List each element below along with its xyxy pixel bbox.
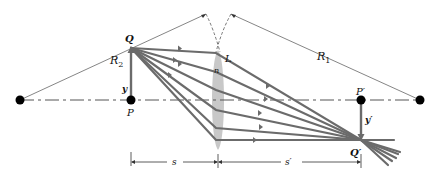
center-of-curvature-left — [16, 96, 25, 105]
ray-arrow-icon — [258, 110, 262, 116]
label-q: Q — [125, 33, 134, 44]
label-y: y — [121, 84, 128, 94]
label-r2: R2 — [109, 54, 123, 69]
radius-r1-tip-icon — [231, 14, 236, 18]
label-n: n — [214, 66, 219, 75]
label-p-prime: P′ — [355, 86, 366, 97]
label-y-prime: y′ — [364, 115, 373, 125]
lens-diagram: R2 R1 Q L n y P P′ y′ Q′ s s′ — [0, 0, 440, 180]
object-point-p — [127, 96, 136, 105]
radius-r2-tip-icon — [201, 14, 206, 18]
label-l: L — [224, 53, 232, 64]
label-s: s — [172, 157, 177, 167]
label-q-prime: Q′ — [350, 147, 362, 158]
label-s-prime: s′ — [285, 157, 292, 167]
ray-arrow-icon — [253, 137, 257, 143]
center-of-curvature-right — [416, 96, 425, 105]
surface-arc-right — [216, 14, 231, 52]
label-r1: R1 — [316, 50, 330, 65]
ray-arrow-icon — [173, 57, 177, 63]
label-p: P — [126, 107, 134, 118]
ray-arrow-icon — [259, 124, 263, 130]
